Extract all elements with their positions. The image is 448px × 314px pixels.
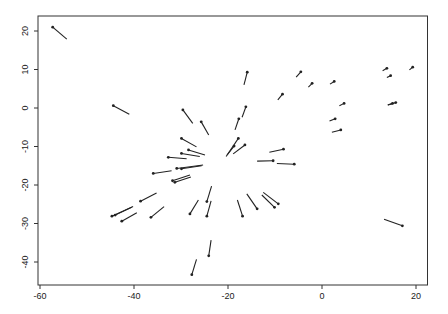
segment-origin-dot xyxy=(299,70,302,73)
vector-segment xyxy=(180,137,196,147)
x-axis: -60-40-20020 xyxy=(33,285,421,301)
segment-origin-dot xyxy=(180,152,183,155)
vector-segment xyxy=(205,186,211,203)
segment-line xyxy=(235,119,239,130)
segment-line xyxy=(242,107,246,117)
vector-segment xyxy=(150,207,165,219)
x-tick-label: 0 xyxy=(319,291,324,301)
segment-origin-dot xyxy=(181,109,184,112)
segment-origin-dot xyxy=(111,215,114,218)
vector-segment xyxy=(247,194,259,210)
x-tick-label: -60 xyxy=(33,291,46,301)
x-tick-label: 20 xyxy=(411,291,421,301)
segment-origin-dot xyxy=(391,102,394,105)
segment-origin-dot xyxy=(343,102,346,105)
vector-segment xyxy=(190,259,196,276)
segment-line xyxy=(207,186,212,201)
vector-segment xyxy=(181,109,192,124)
vector-segment xyxy=(205,201,211,218)
segment-origin-dot xyxy=(190,273,193,276)
segment-origin-dot xyxy=(237,117,240,120)
segment-origin-dot xyxy=(293,163,296,166)
segment-origin-dot xyxy=(175,167,178,170)
vector-segment xyxy=(167,156,187,159)
segment-line xyxy=(113,106,129,114)
vector-segment xyxy=(387,74,392,77)
segment-line xyxy=(269,149,283,152)
vector-segment xyxy=(51,26,67,39)
segment-line xyxy=(122,213,137,221)
vector-segment xyxy=(152,171,172,175)
vector-segment xyxy=(330,117,337,121)
segment-line xyxy=(181,138,196,146)
x-tick-label: -40 xyxy=(127,291,140,301)
segment-origin-dot xyxy=(272,159,275,162)
vector-segment xyxy=(139,193,156,202)
vector-segment xyxy=(237,200,244,218)
vector-segment xyxy=(384,219,404,227)
vector-segment xyxy=(330,80,336,84)
segment-origin-dot xyxy=(394,101,397,104)
segment-origin-dot xyxy=(401,224,404,227)
segment-origin-dot xyxy=(139,200,142,203)
vector-segment xyxy=(120,213,136,223)
segment-origin-dot xyxy=(281,93,284,96)
segment-origin-dot xyxy=(152,172,155,175)
vector-segment xyxy=(332,129,342,133)
vector-segment xyxy=(244,71,249,85)
segment-line xyxy=(141,193,157,201)
plot-frame xyxy=(38,16,428,285)
segment-origin-dot xyxy=(180,137,183,140)
segment-line xyxy=(192,259,197,274)
segment-origin-dot xyxy=(171,179,174,182)
vector-plot: -60-40-20020 20100-10-20-30-40 xyxy=(0,0,448,314)
segment-origin-dot xyxy=(200,120,203,123)
segment-line xyxy=(183,110,193,123)
y-tick-label: -30 xyxy=(20,217,30,230)
segment-origin-dot xyxy=(167,156,170,159)
segment-origin-dot xyxy=(173,181,176,184)
segment-line xyxy=(190,200,198,214)
vector-segment xyxy=(189,200,199,215)
vector-segment xyxy=(257,159,274,162)
y-tick-label: -40 xyxy=(20,255,30,268)
segment-origin-dot xyxy=(189,212,192,215)
segment-origin-dot xyxy=(114,214,117,217)
segment-origin-dot xyxy=(207,254,210,257)
data-segments xyxy=(51,26,414,276)
vector-segment xyxy=(242,105,247,117)
y-tick-label: -20 xyxy=(20,178,30,191)
vector-segment xyxy=(233,144,246,154)
segment-origin-dot xyxy=(241,215,244,218)
vector-segment xyxy=(383,67,389,71)
segment-origin-dot xyxy=(180,167,183,170)
y-tick-label: 20 xyxy=(20,26,30,36)
segment-line xyxy=(247,194,257,209)
segment-origin-dot xyxy=(205,200,208,203)
segment-origin-dot xyxy=(273,206,276,209)
segment-line xyxy=(151,207,164,218)
y-tick-label: 10 xyxy=(20,64,30,74)
vector-segment xyxy=(235,117,240,130)
vector-segment xyxy=(269,148,285,152)
y-tick-label: 0 xyxy=(20,105,30,110)
segment-origin-dot xyxy=(244,144,247,147)
vector-segment xyxy=(277,163,296,166)
segment-origin-dot xyxy=(277,202,280,205)
segment-origin-dot xyxy=(389,74,392,77)
segment-line xyxy=(181,153,199,156)
segment-line xyxy=(207,201,211,216)
segment-line xyxy=(237,200,242,216)
segment-origin-dot xyxy=(339,129,342,132)
vector-segment xyxy=(112,104,129,114)
segment-line xyxy=(277,163,294,164)
vector-segment xyxy=(388,102,394,105)
y-tick-label: -10 xyxy=(20,140,30,153)
segment-origin-dot xyxy=(385,67,388,70)
segment-origin-dot xyxy=(112,104,115,107)
segment-line xyxy=(209,240,211,256)
vector-segment xyxy=(187,149,205,155)
vector-segment xyxy=(339,102,345,106)
segment-line xyxy=(262,195,275,207)
vector-segment xyxy=(114,207,133,217)
